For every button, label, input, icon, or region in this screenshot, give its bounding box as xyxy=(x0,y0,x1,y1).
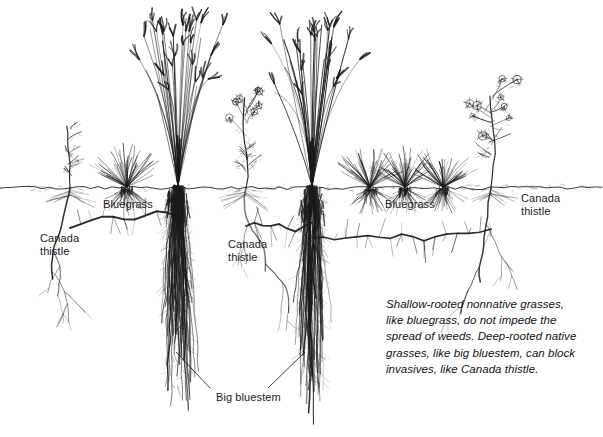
explanatory-caption: Shallow-rooted nonnative grasses, like b… xyxy=(386,296,582,377)
label-leader-lines xyxy=(176,352,305,388)
plant-thistle-1 xyxy=(39,121,96,330)
plant-label-bluegrass-right: Bluegrass xyxy=(385,198,435,211)
plant-bluestem-2 xyxy=(261,12,370,425)
plant-label-canada-thistle-left: Canada thistle xyxy=(40,232,79,258)
plant-label-big-bluestem: Big bluestem xyxy=(216,391,281,404)
plant-label-bluegrass-left: Bluegrass xyxy=(103,198,153,211)
soil-line xyxy=(0,184,602,192)
plant-label-canada-thistle-mid: Canada thistle xyxy=(228,238,267,264)
leader-bluestem-right xyxy=(268,352,305,388)
plant-label-canada-thistle-right: Canada thistle xyxy=(521,192,560,218)
root-systems-figure: Canada thistleBluegrassCanada thistleBlu… xyxy=(0,0,603,437)
